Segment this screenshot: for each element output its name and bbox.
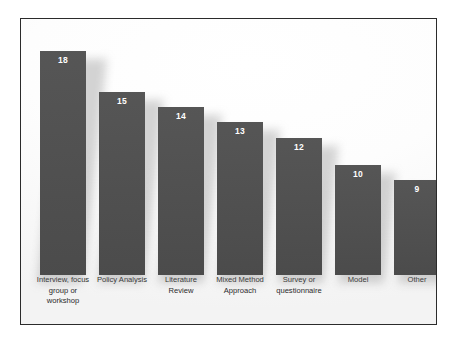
bar-value-label: 13 [217, 127, 263, 136]
x-tick-label-line: group or [30, 286, 96, 297]
bar[interactable]: 9 [394, 180, 437, 275]
chart-frame: 18 15 14 13 [20, 18, 437, 325]
x-tick-label-line: Approach [207, 286, 273, 297]
bar[interactable]: 15 [99, 92, 145, 275]
bar-value-label: 15 [99, 97, 145, 106]
bar[interactable]: 14 [158, 107, 204, 275]
x-tick-label-line: workshop [30, 296, 96, 307]
figure-canvas: 18 15 14 13 [0, 0, 455, 348]
bar-value-label: 18 [40, 56, 86, 65]
x-tick-label-line: questionnaire [266, 286, 332, 297]
bar[interactable]: 12 [276, 138, 322, 275]
bar-value-label: 9 [394, 185, 437, 194]
x-tick-label-line: Review [148, 286, 214, 297]
bar-value-label: 14 [158, 112, 204, 121]
bar-value-label: 12 [276, 143, 322, 152]
bar[interactable]: 10 [335, 165, 381, 275]
bar[interactable]: 13 [217, 122, 263, 275]
bar[interactable]: 18 [40, 51, 86, 275]
plot-area: 18 15 14 13 [21, 19, 436, 324]
bar-value-label: 10 [335, 170, 381, 179]
